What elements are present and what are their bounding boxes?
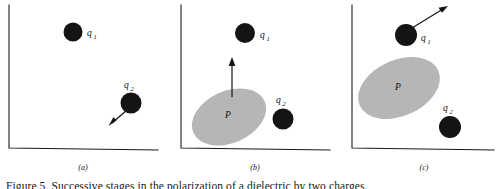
- panel-a-charge-q1-label: q: [87, 28, 92, 38]
- figure-caption-text: Figure 5. Successive stages in the polar…: [6, 180, 498, 189]
- panel-c-charge-q1-label: q: [421, 33, 426, 43]
- panel-c-velocity-arrow-icon: [412, 6, 448, 28]
- panel-b-charge-q1: [235, 23, 255, 43]
- panel-a-charge-q2-subscript: 2: [131, 85, 135, 92]
- panel-c-charge-q2-subscript: 2: [450, 108, 454, 115]
- panel-c-charge-q2: [439, 116, 461, 138]
- figure-caption-cropped: Figure 5. Successive stages in the polar…: [0, 180, 499, 189]
- panel-a-charge-q2-label: q: [124, 80, 129, 90]
- panel-c-charge-q2-label: q: [443, 103, 448, 113]
- panel-a-charge-q1-subscript: 1: [94, 33, 97, 40]
- panel-b-charge-q1-label: q: [260, 30, 265, 40]
- panel-b: P q 1 q 2 (b): [181, 5, 330, 172]
- figure-diagram: q 1 q 2 (a) P q 1 q 2: [0, 0, 499, 189]
- panel-c: P q 1 q 2 (c): [348, 5, 494, 172]
- panel-a-axes: [9, 5, 158, 150]
- panel-a-caption-label: (a): [78, 163, 88, 172]
- panel-c-blob-label: P: [394, 82, 401, 92]
- panel-c-caption-label: (c): [420, 163, 429, 172]
- panel-a: q 1 q 2 (a): [9, 5, 158, 172]
- figure-canvas: q 1 q 2 (a) P q 1 q 2: [0, 0, 499, 189]
- panel-b-caption-label: (b): [250, 163, 260, 172]
- panel-a-charge-q2: [121, 93, 142, 114]
- panel-b-charge-q2: [273, 109, 294, 130]
- panel-b-charge-q2-subscript: 2: [283, 100, 287, 107]
- panel-a-velocity-arrow-icon: [109, 110, 128, 126]
- panel-c-charge-q1-subscript: 1: [428, 38, 431, 45]
- panel-b-charge-q2-label: q: [276, 95, 281, 105]
- panel-a-charge-q1: [64, 23, 83, 42]
- panel-b-charge-q1-subscript: 1: [267, 35, 270, 42]
- panel-b-blob-label: P: [224, 110, 231, 120]
